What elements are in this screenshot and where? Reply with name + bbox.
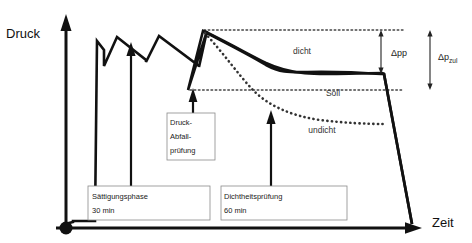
- diagram-canvas: Druck Zeit dicht Soll undicht Δpp Δpzul …: [0, 0, 472, 243]
- label-soll: Soll: [326, 88, 340, 98]
- druckabfallpruefung-line-1: Druck-: [170, 118, 193, 127]
- x-axis-label: Zeit: [432, 215, 454, 230]
- saettigungsphase-line-2: 30 min: [92, 206, 115, 215]
- saettigungsphase-line-1: Sättigungsphase: [92, 192, 148, 201]
- label-delta-p-zul-sub: zul: [449, 57, 458, 64]
- label-dicht: dicht: [293, 46, 312, 56]
- label-undicht: undicht: [308, 125, 336, 135]
- druckabfallpruefung-line-2: Abfall-: [170, 132, 192, 141]
- dichtheitspruefung-line-1: Dichtheitsprüfung: [224, 192, 282, 201]
- druckabfallpruefung-line-3: prüfung: [170, 146, 195, 155]
- label-delta-pp: Δpp: [391, 48, 407, 58]
- dichtheitspruefung-line-2: 60 min: [224, 206, 247, 215]
- y-axis-label: Druck: [6, 26, 40, 41]
- label-delta-p-zul-main: Δp: [438, 52, 449, 62]
